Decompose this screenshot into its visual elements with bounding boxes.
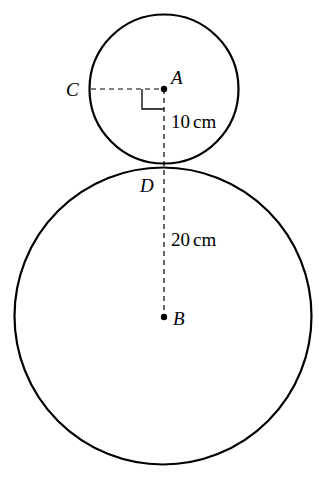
right-angle-marker [142,89,164,109]
large-radius-number: 20 [171,229,190,250]
point-a [161,86,167,92]
label-b: B [173,308,185,329]
label-a: A [169,67,183,88]
small-radius-unit: cm [193,111,216,132]
large-radius-unit: cm [193,229,216,250]
tangent-circles-diagram: A C D B 10cm 20cm [0,0,319,477]
small-radius-measure: 10cm [171,111,216,132]
label-c: C [66,79,79,100]
large-radius-measure: 20cm [171,229,216,250]
small-radius-number: 10 [171,111,190,132]
point-b [161,314,167,320]
label-d: D [139,175,154,196]
